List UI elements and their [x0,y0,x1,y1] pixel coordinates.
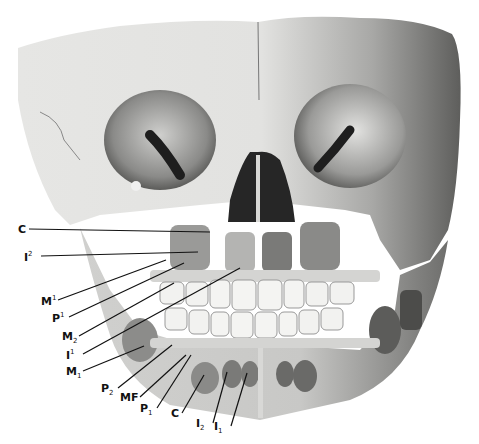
label-index: 2 [109,389,113,397]
label-m1-upper: M1 [41,295,56,307]
label-index: 1 [60,311,64,319]
label-i1-lower: I1 [214,421,223,435]
label-index: 1 [148,409,152,417]
label-index: 2 [73,337,77,345]
label-base: M [62,330,73,343]
label-base: P [101,382,109,395]
label-p1-upper: P1 [52,312,65,324]
label-base: M [41,295,52,308]
label-base: M [66,365,77,378]
label-p1-lower: P1 [140,403,153,417]
label-i1-upper: I1 [66,349,75,361]
label-m2-lower: M2 [62,331,77,345]
label-c-upper: C [18,224,26,235]
label-base: P [140,402,148,415]
label-index: 1 [70,348,74,356]
label-index: 1 [77,372,81,380]
label-i2-upper: I2 [24,251,33,263]
label-base: P [52,312,60,325]
label-mf: MF [120,392,138,403]
upper-teeth [150,270,380,310]
label-index: 1 [218,427,222,435]
upper-tooth-crypts [170,222,340,272]
label-base: MF [120,391,138,404]
lower-teeth [150,308,380,348]
label-index: 1 [52,294,56,302]
label-index: 2 [28,250,32,258]
label-p2-lower: P2 [101,383,114,397]
label-i2-lower: I2 [196,418,205,432]
label-base: C [18,223,26,236]
label-index: 2 [200,424,204,432]
label-base: C [171,407,179,420]
label-m1-lower: M1 [66,366,81,380]
label-c-lower: C [171,408,179,419]
skull-dentition-illustration: CI2M1P1M2I1M1P2MFP1CI2I1 [0,0,479,444]
